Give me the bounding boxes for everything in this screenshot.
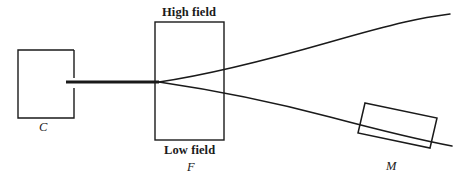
upper-beam-trace: [159, 14, 450, 82]
field-magnet-label: F: [187, 161, 195, 174]
collimator-box-c: [18, 50, 74, 118]
collimator-outline-lower: [18, 50, 74, 118]
low-field-label: Low field: [164, 144, 215, 157]
lower-beam-trace: [159, 82, 452, 146]
high-field-label: High field: [162, 6, 216, 19]
diagram-canvas: [0, 0, 464, 180]
collimator-label: C: [39, 121, 47, 134]
beam-apparatus-diagram: High field Low field F C M: [0, 0, 464, 180]
detector-label: M: [386, 160, 396, 173]
